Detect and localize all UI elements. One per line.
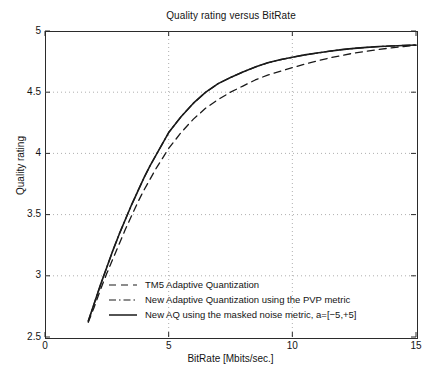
- x-tick-label: 5: [149, 340, 189, 351]
- figure-canvas: Quality rating versus BitRate 2.533.544.…: [0, 0, 441, 379]
- legend-line-solid-icon: [108, 308, 138, 322]
- x-tick-label: 15: [396, 340, 436, 351]
- legend-item: New Adaptive Quantization using the PVP …: [108, 292, 383, 307]
- x-tick-label: 10: [272, 340, 312, 351]
- y-axis-label: Quality rating: [15, 116, 26, 216]
- legend-item-label: New Adaptive Quantization using the PVP …: [145, 294, 350, 305]
- chart-title: Quality rating versus BitRate: [45, 10, 417, 21]
- legend: TM5 Adaptive Quantization New Adaptive Q…: [108, 277, 383, 322]
- legend-item-label: New AQ using the masked noise metric, a=…: [145, 309, 357, 320]
- legend-line-dashed-icon: [108, 278, 138, 292]
- y-tick-label: 3: [0, 269, 41, 280]
- y-tick-label: 4.5: [0, 86, 41, 97]
- legend-item: New AQ using the masked noise metric, a=…: [108, 307, 383, 322]
- x-axis-label: BitRate [Mbits/sec.]: [45, 353, 416, 364]
- legend-item: TM5 Adaptive Quantization: [108, 277, 383, 292]
- y-tick-label: 5: [0, 25, 41, 36]
- x-tick-label: 0: [25, 340, 65, 351]
- legend-item-label: TM5 Adaptive Quantization: [145, 279, 259, 290]
- legend-line-dash-dot-icon: [108, 293, 138, 307]
